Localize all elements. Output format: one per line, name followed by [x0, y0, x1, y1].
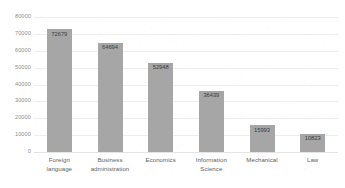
x-axis-category-label: Economics	[135, 156, 186, 165]
bar[interactable]: 10823	[300, 134, 325, 152]
x-axis-category-label-line: Science	[186, 165, 237, 174]
y-axis-tick-label: 30000	[0, 99, 31, 105]
x-axis-category-label: InformationScience	[186, 156, 237, 173]
bar-value-label: 15993	[250, 128, 275, 134]
y-axis-tick-label: 50000	[0, 65, 31, 71]
plot-area: 8000070000600005000040000300002000010000…	[34, 17, 338, 152]
bar[interactable]: 15993	[250, 125, 275, 152]
x-axis-category-label: Mechanical	[237, 156, 288, 165]
y-axis-tick-label: 60000	[0, 48, 31, 54]
y-axis-tick-label: 0	[0, 149, 31, 155]
x-axis-category-label-line: Business	[85, 156, 136, 165]
x-axis-category-label-line: language	[34, 165, 85, 174]
bar[interactable]: 64694	[98, 43, 123, 152]
x-axis-category-label-line: Mechanical	[237, 156, 288, 165]
bar-value-label: 64694	[98, 45, 123, 51]
bar-value-label: 52948	[148, 65, 173, 71]
bar[interactable]: 72679	[47, 29, 72, 152]
bar-slot: 64694	[98, 17, 123, 152]
x-axis-category-label-line: Information	[186, 156, 237, 165]
bar-slot: 36439	[199, 17, 224, 152]
bar-slot: 10823	[300, 17, 325, 152]
y-axis-tick-label: 10000	[0, 132, 31, 138]
bar-value-label: 72679	[47, 32, 72, 38]
x-axis-category-label-line: Law	[287, 156, 338, 165]
bar[interactable]: 52948	[148, 63, 173, 152]
bar-value-label: 36439	[199, 93, 224, 99]
axis-baseline	[34, 152, 338, 153]
bars-group: 726796469452948364391599310823	[34, 17, 338, 152]
bar-slot: 52948	[148, 17, 173, 152]
x-axis-category-label-line: Foreign	[34, 156, 85, 165]
y-axis-tick-label: 80000	[0, 14, 31, 20]
bar-slot: 15993	[250, 17, 275, 152]
x-axis-category-label-line: Economics	[135, 156, 186, 165]
y-axis-tick-label: 20000	[0, 115, 31, 121]
x-axis-category-label-line: administration	[85, 165, 136, 174]
x-axis-category-labels: ForeignlanguageBusinessadministrationEco…	[34, 156, 338, 186]
bar-slot: 72679	[47, 17, 72, 152]
x-axis-category-label: Law	[287, 156, 338, 165]
bar[interactable]: 36439	[199, 91, 224, 152]
x-axis-category-label: Foreignlanguage	[34, 156, 85, 173]
bar-chart: 8000070000600005000040000300002000010000…	[0, 0, 345, 188]
y-axis-tick-label: 70000	[0, 31, 31, 37]
y-axis-tick-label: 40000	[0, 82, 31, 88]
bar-value-label: 10823	[300, 136, 325, 142]
x-axis-category-label: Businessadministration	[85, 156, 136, 173]
